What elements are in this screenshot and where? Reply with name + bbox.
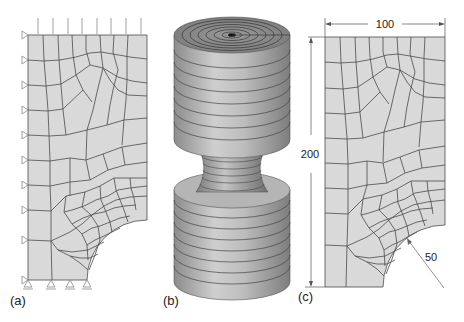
dimension-radius [407,238,444,288]
dimension-height-label: 200 [301,148,319,160]
dimension-height [305,37,325,287]
roller-support-icons-bottom [23,280,92,289]
load-arrows-icon [38,18,141,34]
mesh-plate-a [28,35,147,280]
panel-label-b: (b) [163,293,179,308]
panel-label-a: (a) [10,293,26,308]
panel-c: 100 200 50 (c) [298,18,445,304]
figure-canvas: (a) [0,0,464,322]
panel-b: (b) [163,17,290,308]
panel-label-c: (c) [298,289,313,304]
dimension-radius-label: 50 [425,251,437,263]
roller-support-icons-left [22,31,28,284]
panel-a: (a) [10,18,147,308]
dimension-width-label: 100 [376,18,394,30]
